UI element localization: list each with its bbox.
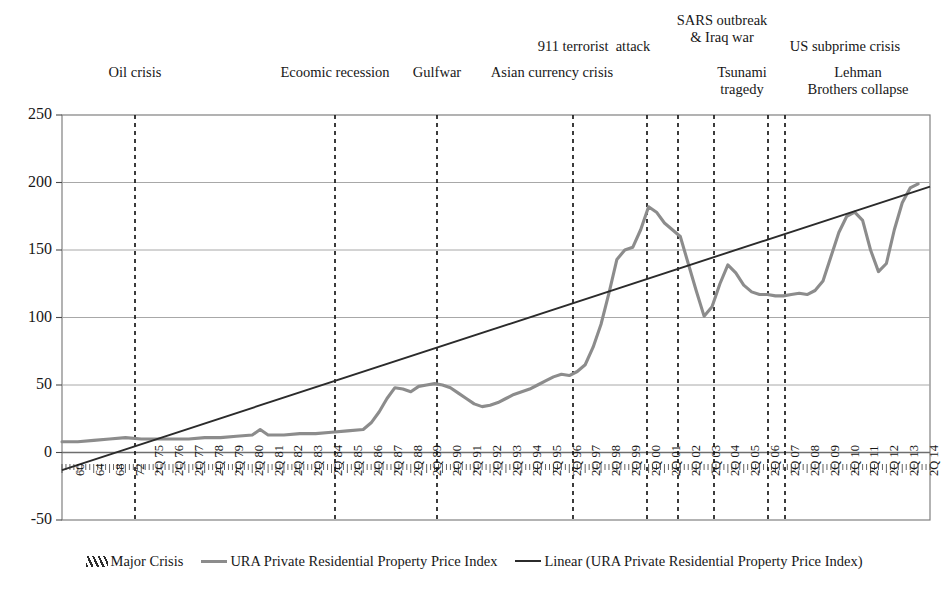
x-axis-label: 2Q 05: [748, 445, 763, 476]
crisis-label-911-terrorist-attack: 911 terrorist attack: [538, 38, 651, 55]
linear-trend-line: [62, 187, 930, 471]
x-axis-label: 2Q 04: [728, 445, 743, 476]
x-axis-label: 2Q 85: [351, 445, 366, 476]
x-axis-label: 2Q 12: [887, 445, 902, 476]
chart-container: Oil crisisEcoomic recessionGulfwarAsian …: [0, 0, 949, 590]
y-axis-label: 200: [0, 173, 52, 191]
x-axis-label: 2Q 98: [609, 445, 624, 476]
x-axis-label: 2Q 90: [450, 445, 465, 476]
x-axis-label: 2Q 81: [272, 445, 287, 476]
crisis-label-economic-recession: Ecoomic recession: [280, 64, 389, 81]
x-axis-label: 2Q 97: [589, 445, 604, 476]
crisis-label-tsunami-tragedy: Tsunami tragedy: [717, 64, 767, 98]
x-axis-label: 2Q 09: [828, 445, 843, 476]
x-axis-label: 72: [133, 464, 148, 477]
legend-label-major-crisis: Major Crisis: [110, 553, 183, 570]
x-axis-label: 64: [93, 464, 108, 477]
x-axis-label: 2Q 84: [331, 445, 346, 476]
hatch-swatch-icon: [86, 556, 108, 567]
x-axis-label: 2Q 93: [510, 445, 525, 476]
crisis-label-sars-outbreak-iraq-war: SARS outbreak & Iraq war: [677, 12, 768, 46]
legend-item-price-index: URA Private Residential Property Price I…: [201, 553, 497, 570]
x-axis-label: 2Q 91: [470, 445, 485, 476]
x-axis-label: 2Q 95: [550, 445, 565, 476]
x-axis-label: 2Q 13: [907, 445, 922, 476]
x-axis-label: 2Q 94: [530, 445, 545, 476]
legend-item-linear-trend: Linear (URA Private Residential Property…: [515, 553, 862, 570]
crisis-label-us-subprime-crisis: US subprime crisis: [790, 38, 900, 55]
x-axis-label: 2Q 86: [371, 445, 386, 476]
crisis-label-lehman-brothers-collapse: Lehman Brothers collapse: [807, 64, 908, 98]
x-axis-label: 2Q 82: [291, 445, 306, 476]
x-axis-label: 2Q 99: [629, 445, 644, 476]
x-axis-label: 2Q 75: [152, 445, 167, 476]
dark-line-swatch-icon: [515, 560, 541, 562]
y-axis-label: 50: [0, 375, 52, 393]
x-axis-label: 2Q 88: [411, 445, 426, 476]
y-axis-label: 0: [0, 443, 52, 461]
x-axis-label: 2Q 92: [490, 445, 505, 476]
gray-line-swatch-icon: [201, 560, 227, 563]
x-axis-label: 2Q 80: [252, 445, 267, 476]
x-axis-label: 2Q 00: [649, 445, 664, 476]
x-axis-label: 2Q 10: [848, 445, 863, 476]
y-axis-label: 250: [0, 105, 52, 123]
y-axis-label: 150: [0, 240, 52, 258]
y-axis-label: 100: [0, 308, 52, 326]
x-axis-label: 2Q 02: [689, 445, 704, 476]
x-axis-label: 2Q 78: [212, 445, 227, 476]
x-axis-label: 2Q 96: [570, 445, 585, 476]
legend-label-price-index: URA Private Residential Property Price I…: [230, 553, 497, 570]
x-axis-label: 2Q 14: [927, 445, 942, 476]
crisis-label-asian-currency-crisis: Asian currency crisis: [491, 64, 613, 81]
y-axis-label: -50: [0, 510, 52, 528]
legend-label-linear-trend: Linear (URA Private Residential Property…: [544, 553, 862, 570]
x-axis-label: 2Q 83: [311, 445, 326, 476]
x-axis-label: 2Q 87: [391, 445, 406, 476]
x-axis-label: 2Q 03: [709, 445, 724, 476]
x-axis-label: 2Q 11: [867, 446, 882, 476]
price-index-line: [62, 184, 918, 442]
x-axis-label: 2Q 01: [669, 445, 684, 476]
crisis-label-oil-crisis: Oil crisis: [109, 64, 162, 81]
x-axis-label: 2Q 76: [172, 445, 187, 476]
x-axis-label: 60: [73, 464, 88, 477]
x-axis-label: 2Q 06: [768, 445, 783, 476]
x-axis-label: 2Q 79: [232, 445, 247, 476]
x-axis-label: 68: [113, 464, 128, 477]
crisis-label-gulfwar: Gulfwar: [413, 64, 461, 81]
x-axis-label: 2Q 89: [430, 445, 445, 476]
x-axis-label: 2Q 08: [808, 445, 823, 476]
legend-item-major-crisis: Major Crisis: [86, 553, 183, 570]
chart-legend: Major Crisis URA Private Residential Pro…: [0, 548, 949, 574]
x-axis-label: 2Q 77: [192, 445, 207, 476]
x-axis-label: 2Q 07: [788, 445, 803, 476]
